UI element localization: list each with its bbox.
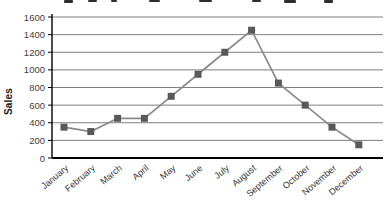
data-point-november [329, 124, 336, 131]
x-tick-label-june: June [183, 163, 204, 183]
y-tick-label-200: 200 [29, 135, 45, 146]
data-point-may [168, 93, 175, 100]
y-tick-label-1000: 1000 [24, 64, 45, 75]
y-tick-label-400: 400 [29, 117, 45, 128]
data-point-june [195, 71, 202, 78]
y-tick-label-1200: 1200 [24, 47, 45, 58]
y-tick-label-800: 800 [29, 82, 45, 93]
y-tick-label-1400: 1400 [24, 29, 45, 40]
x-tick-label-july: July [212, 163, 231, 181]
data-point-july [221, 49, 228, 56]
x-tick-label-february: February [63, 163, 97, 194]
data-point-april [141, 115, 148, 122]
data-point-march [114, 115, 121, 122]
sales-line-chart: Sales 02004006008001000120014001600Janua… [0, 0, 387, 210]
y-tick-label-0: 0 [40, 153, 45, 164]
x-tick-label-april: April [130, 163, 150, 182]
data-point-january [61, 124, 68, 131]
data-point-september [275, 80, 282, 87]
x-tick-label-may: May [158, 163, 178, 182]
y-tick-label-600: 600 [29, 100, 45, 111]
data-point-december [355, 141, 362, 148]
data-point-august [248, 27, 255, 34]
data-point-february [87, 128, 94, 135]
y-tick-label-1600: 1600 [24, 12, 45, 23]
plot-area: 02004006008001000120014001600JanuaryFebr… [0, 0, 387, 210]
x-tick-label-march: March [98, 163, 124, 187]
data-point-october [302, 102, 309, 109]
